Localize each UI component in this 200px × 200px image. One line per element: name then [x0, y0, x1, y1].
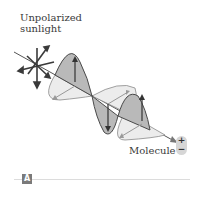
panel-divider: [14, 179, 190, 180]
polarization-wave-diagram: [0, 0, 200, 200]
panel-label-badge: A: [22, 174, 32, 184]
dipole-charge-icon: + −: [176, 136, 187, 155]
molecule-label: Molecule: [129, 145, 176, 156]
minus-sign: −: [176, 145, 187, 154]
sunburst-arrows-icon: [18, 46, 54, 88]
